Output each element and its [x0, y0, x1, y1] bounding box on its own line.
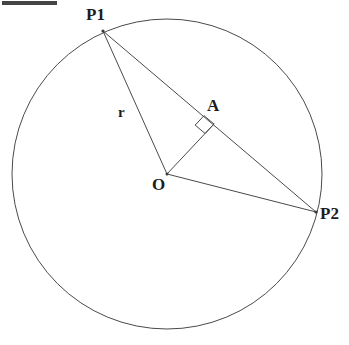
vertex-dot-o [166, 173, 169, 176]
label-p2: P2 [320, 205, 339, 222]
segment-p1-o [103, 31, 167, 174]
label-radius: r [118, 105, 125, 120]
label-o: O [152, 176, 165, 193]
label-p1: P1 [86, 6, 105, 23]
right-angle-marker [195, 116, 214, 134]
vertex-dot-p1 [101, 29, 104, 32]
vertex-dot-p2 [314, 210, 317, 213]
geometry-diagram: P1 r A O P2 [0, 0, 349, 345]
label-a: A [207, 97, 219, 114]
figure-canvas [0, 0, 349, 345]
